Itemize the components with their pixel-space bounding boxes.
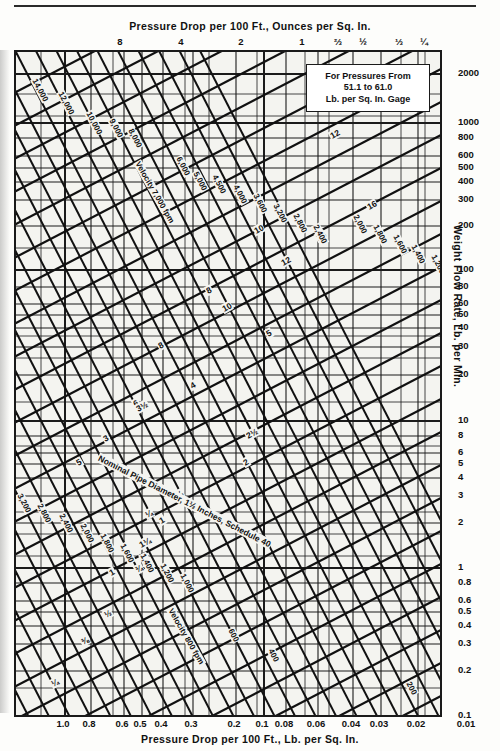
nomograph-grid <box>16 52 440 715</box>
nomograph-plot-area[interactable]: 16141210865161412108543½32½21¼1¼1¼1¾½⅜¼ … <box>14 50 442 717</box>
y-axis-title: Weight Flow Rate, Lb. per Min. <box>452 206 464 406</box>
bottom-tick-0: 1.0 <box>56 718 69 729</box>
top-tick-1: 4 <box>178 36 183 47</box>
y-tick-28: 0.2 <box>458 664 471 675</box>
top-tick-6: ⅓ <box>395 36 403 47</box>
bottom-tick-1: 0.8 <box>82 718 95 729</box>
bottom-tick-2: 0.6 <box>115 718 128 729</box>
top-tick-5: ½ <box>359 36 367 47</box>
y-tick-6: 300 <box>458 193 474 204</box>
top-rule <box>14 5 476 7</box>
y-tick-3: 600 <box>458 149 474 160</box>
y-tick-17: 6 <box>458 446 463 457</box>
bottom-tick-3: 0.5 <box>133 718 146 729</box>
y-tick-4: 500 <box>458 161 474 172</box>
top-tick-4: ⅔ <box>334 36 342 47</box>
y-tick-5: 400 <box>458 175 474 186</box>
callout-line-3: Lb. per Sq. In. Gage <box>326 94 411 105</box>
y-tick-0: 2000 <box>458 67 479 78</box>
top-tick-2: 2 <box>238 36 243 47</box>
top-tick-7: ¼ <box>420 36 428 47</box>
top-tick-3: 1 <box>299 36 304 47</box>
y-tick-27: 0.3 <box>458 637 471 648</box>
y-tick-26: 0.4 <box>458 619 471 630</box>
bottom-tick-4: 0.4 <box>154 718 167 729</box>
callout-line-1: For Pressures From <box>325 71 411 82</box>
y-tick-22: 1 <box>458 561 463 572</box>
bottom-tick-8: 0.08 <box>275 718 294 729</box>
top-axis-title: Pressure Drop per 100 Ft., Ounces per Sq… <box>0 20 500 32</box>
y-tick-16: 8 <box>458 429 463 440</box>
bottom-tick-12: 0.02 <box>407 718 426 729</box>
y-tick-19: 4 <box>458 471 463 482</box>
y-tick-18: 5 <box>458 457 463 468</box>
chart-page: Pressure Drop per 100 Ft., Ounces per Sq… <box>0 0 500 751</box>
scan-edge-shadow <box>0 50 10 713</box>
bottom-tick-13: 0.01 <box>457 718 476 729</box>
bottom-tick-11: 0.03 <box>370 718 389 729</box>
y-tick-23: 0.8 <box>458 576 471 587</box>
bottom-tick-5: 0.3 <box>184 718 197 729</box>
y-tick-21: 2 <box>458 516 463 527</box>
bottom-tick-7: 0.1 <box>255 718 268 729</box>
y-tick-25: 0.5 <box>458 605 471 616</box>
y-tick-1: 1000 <box>458 116 479 127</box>
y-tick-24: 0.6 <box>458 594 471 605</box>
pressure-range-callout: For Pressures From 51.1 to 61.0 Lb. per … <box>306 64 430 112</box>
bottom-tick-9: 0.06 <box>307 718 326 729</box>
y-tick-2: 800 <box>458 131 474 142</box>
callout-line-2: 51.1 to 61.0 <box>344 82 393 93</box>
y-tick-20: 3 <box>458 489 463 500</box>
bottom-tick-6: 0.2 <box>227 718 240 729</box>
top-tick-0: 8 <box>117 36 122 47</box>
y-tick-15: 10 <box>458 414 469 425</box>
bottom-axis-title: Pressure Drop per 100 Ft., Lb. per Sq. I… <box>0 733 500 745</box>
bottom-tick-10: 0.04 <box>342 718 361 729</box>
